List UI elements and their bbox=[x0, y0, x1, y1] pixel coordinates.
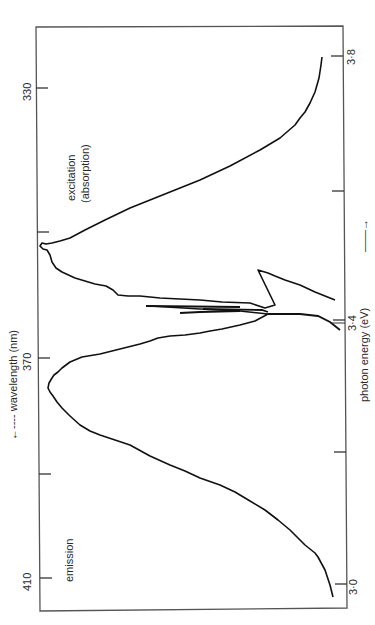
excitation-label: excitation bbox=[66, 155, 77, 201]
wavelength-tick-370: 370 bbox=[22, 353, 33, 371]
energy-ticks bbox=[331, 56, 347, 584]
absorption-label: (absorption) bbox=[80, 144, 91, 203]
wavelength-axis-text: wavelength (nm) bbox=[7, 330, 19, 411]
energy-arrow-icon: ——→ bbox=[359, 219, 370, 252]
emission-label: emission bbox=[64, 539, 75, 582]
wavelength-axis-label: ←---- wavelength (nm) bbox=[8, 330, 19, 440]
energy-tick-3-4: 3·4 bbox=[347, 315, 358, 331]
energy-tick-3-8: 3·8 bbox=[346, 49, 357, 65]
energy-axis-label: photon energy (eV) bbox=[359, 308, 370, 402]
emission-curve bbox=[48, 306, 333, 597]
energy-tick-3-0: 3·0 bbox=[348, 579, 359, 595]
spectrum-chart bbox=[0, 0, 375, 625]
wavelength-tick-330: 330 bbox=[22, 83, 33, 101]
wavelength-arrow-icon: ←---- bbox=[7, 414, 19, 440]
wavelength-tick-410: 410 bbox=[22, 573, 33, 591]
plot-frame bbox=[36, 26, 347, 611]
exciton-spikes bbox=[146, 306, 340, 330]
